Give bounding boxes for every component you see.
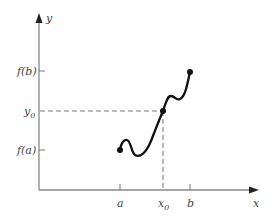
x-tick-x0: x0 [158,197,169,212]
x-tick-a: a [117,197,124,210]
y-axis-arrow-icon [36,13,43,23]
x-axis-arrow-icon [249,187,259,194]
axes [36,13,260,194]
y-tick-fa: f(a) [16,144,36,157]
y-axis-label: y [45,12,53,25]
x-ticks: a x0 b [117,184,194,212]
y-tick-y0: y0 [23,105,35,120]
function-curve [120,72,190,156]
y-tick-fb: f(b) [16,65,37,78]
point-b-fb [187,69,193,75]
x-axis-label: x [253,197,260,210]
x-tick-b: b [187,197,194,210]
point-a-fa [117,147,123,153]
point-x0-y0 [160,108,166,114]
ivt-diagram: y x f(b) y0 f(a) a x0 b [0,0,271,221]
